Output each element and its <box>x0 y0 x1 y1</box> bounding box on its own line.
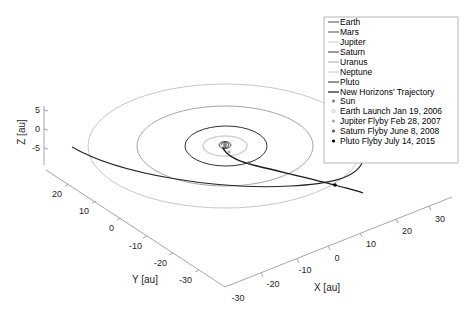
y-tick: 0 <box>109 223 114 233</box>
legend-item-earth-launch: Earth Launch Jan 19, 2006 <box>340 106 442 116</box>
pluto-flyby-marker <box>333 183 337 187</box>
z-tick: -5 <box>32 143 40 153</box>
x-tick: 20 <box>402 226 412 236</box>
y-tick: -10 <box>129 241 142 251</box>
legend-item-neptune: Neptune <box>340 67 372 77</box>
sun-marker <box>223 143 227 147</box>
legend-item-jupiter-flyby: Jupiter Flyby Feb 28, 2007 <box>340 116 441 126</box>
x-tick: 30 <box>435 214 445 224</box>
x-tick: 10 <box>366 239 376 249</box>
legend-item-saturn: Saturn <box>340 47 365 57</box>
x-axis-label: X [au] <box>314 282 340 293</box>
x-axis <box>225 197 452 287</box>
legend-item-uranus: Uranus <box>340 57 367 67</box>
z-axis-label: Z [au] <box>16 119 27 145</box>
legend: Earth Mars Jupiter Saturn Uranus Neptune… <box>324 17 458 163</box>
earth-launch-marker <box>221 145 224 148</box>
y-axis-label: Y [au] <box>132 274 158 285</box>
legend-item-sun: Sun <box>340 96 355 106</box>
y-tick: -20 <box>154 258 167 268</box>
orbits <box>72 84 362 208</box>
y-tick: 20 <box>52 189 62 199</box>
y-tick: 10 <box>79 206 89 216</box>
chart-canvas: 5 0 -5 Z [au] 20 10 0 -10 -20 -30 Y [au]… <box>0 0 470 317</box>
legend-item-jupiter: Jupiter <box>340 37 366 47</box>
saturn-flyby-marker <box>247 161 250 164</box>
x-tick: -10 <box>298 265 311 275</box>
x-tick: 0 <box>334 253 339 263</box>
legend-item-earth: Earth <box>340 17 361 27</box>
legend-item-saturn-flyby: Saturn Flyby June 8, 2008 <box>340 126 440 136</box>
legend-item-pluto: Pluto <box>340 77 360 87</box>
x-tick: -20 <box>266 279 279 289</box>
legend-item-pluto-flyby: Pluto Flyby July 14, 2015 <box>340 136 435 146</box>
jupiter-flyby-marker <box>228 151 231 154</box>
x-tick: -30 <box>231 293 244 303</box>
z-axis <box>44 106 48 165</box>
z-tick: 5 <box>35 105 40 115</box>
y-tick: -30 <box>179 275 192 285</box>
legend-item-mars: Mars <box>340 27 359 37</box>
y-axis <box>46 170 225 287</box>
z-tick: 0 <box>35 124 40 134</box>
